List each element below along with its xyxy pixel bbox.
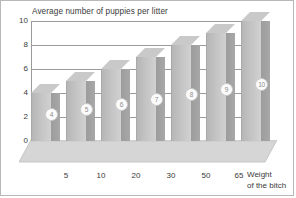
- x-axis-title: Weight of the bitch: [247, 170, 286, 191]
- x-tick-label-5: 5: [64, 171, 68, 180]
- chart-figure: Average number of puppies per litter 10 …: [0, 0, 294, 196]
- bar-value-marker: 4: [45, 108, 58, 121]
- y-tick-label: 2: [24, 113, 28, 121]
- y-tick-label: 10: [19, 17, 28, 25]
- x-axis-title-line2: of the bitch: [247, 181, 286, 192]
- chart-title: Average number of puppies per litter: [32, 7, 168, 16]
- bar-10: 6: [101, 69, 121, 141]
- bar-top-face: [31, 84, 60, 93]
- x-tick-label-30: 30: [167, 171, 176, 180]
- bar-value-marker: 7: [150, 93, 163, 106]
- bar-30: 8: [171, 45, 191, 141]
- bar-value-marker: 10: [255, 78, 268, 91]
- bar-65: 10: [241, 21, 261, 141]
- bar-50: 9: [206, 33, 226, 141]
- bar-value-marker: 9: [220, 83, 233, 96]
- x-tick-label-65: 65: [235, 171, 244, 180]
- bar-top-face: [101, 60, 130, 69]
- bar-series: 45678910: [31, 21, 279, 167]
- bar-first: 4: [31, 93, 51, 141]
- bar-top-face: [241, 12, 270, 21]
- y-tick-label: 4: [24, 89, 28, 97]
- y-tick-label: 0: [24, 137, 28, 145]
- x-axis-title-line1: Weight: [247, 170, 286, 181]
- bar-top-face: [206, 24, 235, 33]
- x-tick-label-50: 50: [202, 171, 211, 180]
- x-tick-label-10: 10: [97, 171, 106, 180]
- y-tick-label: 6: [24, 65, 28, 73]
- bar-value-marker: 6: [115, 98, 128, 111]
- bar-20: 7: [136, 57, 156, 141]
- bar-top-face: [171, 36, 200, 45]
- bar-value-marker: 5: [80, 103, 93, 116]
- bar-value-marker: 8: [185, 88, 198, 101]
- y-tick-label: 8: [24, 41, 28, 49]
- x-tick-label-20: 20: [132, 171, 141, 180]
- bar-top-face: [136, 48, 165, 57]
- bar-top-face: [66, 72, 95, 81]
- bar-5: 5: [66, 81, 86, 141]
